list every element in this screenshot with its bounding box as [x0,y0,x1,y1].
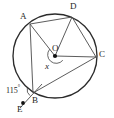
segment-chord-AB [30,24,33,93]
segment-radius-OC [55,56,96,57]
segment-chord-BC [33,57,96,93]
segment-radius-OA [30,24,55,56]
circle-geometry-figure [0,0,114,118]
segment-radius-OD [55,17,72,56]
center-point-dot-O [53,54,57,58]
point-dot-E [21,101,25,105]
